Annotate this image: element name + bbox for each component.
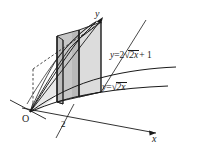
x-axis-label: x: [152, 133, 156, 144]
curve-label-upper-radical: √2x: [124, 50, 139, 61]
curve-label-lower: y=√2x: [102, 82, 127, 93]
radical-symbol-icon-lower: √: [112, 82, 118, 93]
y-axis-label: y: [95, 8, 99, 19]
curve-label-upper-suffix: + 1: [139, 50, 151, 60]
curve-label-lower-radical: √2x: [112, 82, 127, 93]
radical-symbol-icon: √: [124, 50, 130, 61]
curve-label-upper: y=2√2x+ 1: [110, 50, 152, 61]
origin-label: O: [22, 113, 29, 124]
x-tick-label-2: 2: [61, 119, 66, 129]
math-figure-3d-solid: y x O 2 y=2√2x+ 1 y=√2x: [0, 0, 197, 155]
x-axis: [22, 108, 156, 133]
cross-section-far-panel: [79, 22, 101, 97]
figure-canvas: [0, 0, 197, 155]
